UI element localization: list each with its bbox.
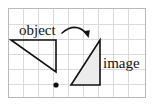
figure-canvas: [0, 0, 154, 106]
image-label: image: [103, 56, 140, 71]
center-of-rotation-dot: [53, 82, 58, 87]
geometry-figure: object image: [0, 0, 154, 106]
object-label: object: [19, 23, 56, 38]
